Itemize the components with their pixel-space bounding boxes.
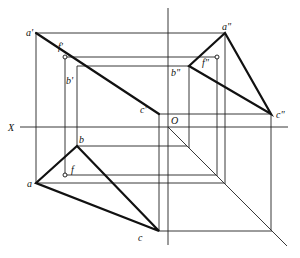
side-view-triangle (189, 33, 271, 114)
label-b-top: b (79, 134, 84, 145)
origin-label: O (171, 115, 178, 126)
label-f-side: f" (202, 57, 210, 68)
point-f-front (63, 55, 67, 59)
projection-diagram: X O a' f' b' c' a" f" b" c" a b f c (0, 0, 300, 258)
x-axis-label: X (7, 122, 15, 133)
top-view-triangle (36, 146, 159, 231)
label-b-side: b" (171, 67, 181, 78)
label-a-top: a (27, 178, 32, 189)
point-f-top (63, 173, 67, 177)
label-f-front: f' (58, 41, 64, 52)
diagonal-45-line (168, 127, 287, 246)
front-view-edge (36, 33, 159, 114)
label-c-front: c' (140, 104, 147, 115)
point-f-side (215, 55, 219, 59)
label-c-side: c" (276, 109, 285, 120)
label-c-top: c (138, 232, 143, 243)
label-b-front: b' (66, 75, 74, 86)
label-f-top: f (71, 164, 75, 175)
label-a-front: a' (26, 27, 34, 38)
label-a-side: a" (222, 21, 232, 32)
